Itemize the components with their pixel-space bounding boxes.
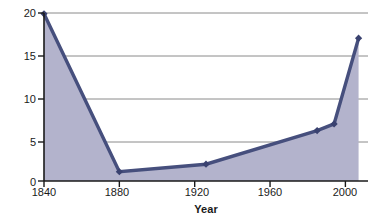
plot-area	[0, 0, 375, 224]
chart-figure: Percent 20 15 10 5 0 1840 1880 1920 1960…	[0, 0, 375, 224]
y-axis-ticks	[38, 13, 44, 181]
data-point-marker	[355, 35, 362, 42]
x-axis-title: Year	[44, 203, 368, 215]
x-axis-ticks	[44, 181, 345, 187]
area-fill	[44, 14, 359, 181]
